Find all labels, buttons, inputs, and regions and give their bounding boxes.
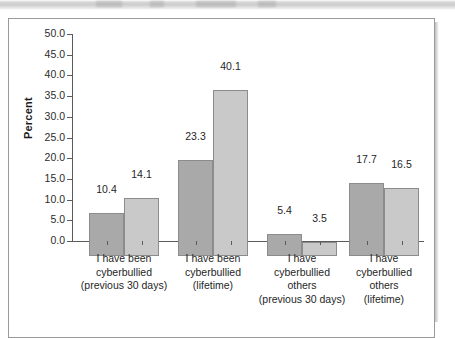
y-tick-10.0: 10.0 (72, 200, 77, 201)
x-tick-mark (402, 241, 403, 245)
y-tick-label: 25.0 (45, 131, 65, 144)
y-tick-mark (67, 34, 72, 35)
y-tick-mark (67, 96, 72, 97)
x-tick-mark (231, 241, 232, 245)
y-tick-label: 40.0 (45, 68, 65, 81)
category-label-line: I have (329, 252, 439, 266)
y-tick-mark (67, 75, 72, 76)
x-tick-mark (142, 241, 143, 245)
y-tick-mark (67, 138, 72, 139)
y-tick-15.0: 15.0 (72, 179, 77, 180)
bar-value-label: 40.1 (208, 60, 253, 72)
y-tick-45.0: 45.0 (72, 55, 77, 56)
bar-group1-series1 (89, 213, 124, 256)
y-tick-label: 50.0 (45, 27, 65, 40)
category-label-line: others (329, 279, 439, 293)
bar-value-label: 14.1 (119, 168, 164, 180)
x-tick-mark (320, 241, 321, 245)
x-tick-mark (107, 241, 108, 245)
y-tick-40.0: 40.0 (72, 75, 77, 76)
bar-group4-series1 (349, 183, 384, 256)
y-tick-label: 10.0 (45, 193, 65, 206)
bar-group2-series2 (213, 90, 248, 256)
bar-value-label: 23.3 (173, 130, 218, 142)
y-tick-mark (67, 55, 72, 56)
x-tick-mark (367, 241, 368, 245)
y-tick-label: 30.0 (45, 110, 65, 123)
category-label-line: cyberbullied (329, 266, 439, 280)
bar-value-label: 16.5 (379, 158, 424, 170)
y-tick-mark (67, 241, 72, 242)
y-tick-25.0: 25.0 (72, 138, 77, 139)
scan-artifact-strip (0, 0, 455, 10)
y-tick-0.0: 0.0 (72, 241, 77, 242)
bar-group1-series2 (124, 198, 159, 256)
y-axis-title: Percent (22, 97, 34, 139)
y-tick-mark (67, 200, 72, 201)
y-tick-label: 35.0 (45, 89, 65, 102)
y-tick-label: 15.0 (45, 172, 65, 185)
y-tick-5.0: 5.0 (72, 220, 77, 221)
x-tick-mark (285, 241, 286, 245)
figure-card: Percent 50.045.040.035.030.025.020.015.0… (8, 18, 435, 338)
y-tick-20.0: 20.0 (72, 158, 77, 159)
y-tick-50.0: 50.0 (72, 34, 77, 35)
bar-value-label: 10.4 (84, 183, 129, 195)
y-tick-mark (67, 220, 72, 221)
y-tick-mark (67, 179, 72, 180)
y-tick-label: 20.0 (45, 151, 65, 164)
y-tick-label: 45.0 (45, 48, 65, 61)
bar-group4-series2 (384, 188, 419, 256)
y-tick-30.0: 30.0 (72, 117, 77, 118)
y-tick-mark (67, 158, 72, 159)
category-label-4: I havecyberbulliedothers(lifetime) (329, 252, 439, 306)
y-tick-mark (67, 117, 72, 118)
bar-value-label: 3.5 (297, 212, 342, 224)
plot-area: 50.045.040.035.030.025.020.015.010.05.00… (72, 34, 424, 256)
x-tick-mark (196, 241, 197, 245)
y-tick-35.0: 35.0 (72, 96, 77, 97)
y-tick-label: 0.0 (50, 234, 65, 247)
y-tick-label: 5.0 (50, 213, 65, 226)
category-label-line: (lifetime) (329, 293, 439, 307)
